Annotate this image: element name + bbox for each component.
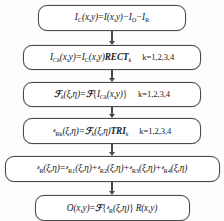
flowchart-canvas: IC(x,y)=I(x,y)−IO−IR ICk(x,y)=IC(x,y)REC… [0, 0, 224, 221]
eq3-lhs-symbol: ℱ [54, 90, 61, 99]
eq3-operator: ℱ [86, 90, 93, 99]
equation-tri-filter: ᵊRk(ξ,η)=ℱk(ξ,η)TRIk k=1,2,3,4 [53, 127, 172, 136]
eq1-t1-args: (x,y) [107, 13, 123, 22]
eq3-lhs-sub: k [61, 94, 64, 100]
eq2-window-sub: k [128, 57, 131, 63]
eq2-r1-sub: C [85, 57, 89, 63]
equation-rect-window: ICk(x,y)=IC(x,y)RECTk k=1,2,3,4 [50, 53, 174, 62]
eq3-brace-close: } [123, 90, 127, 99]
eq4-window-sub: k [126, 131, 129, 137]
flow-node-contrast-image[interactable]: IC(x,y)=I(x,y)−IO−IR [38, 5, 186, 31]
equation-fourier-transform: ℱk(ξ,η)=ℱ{ICk(x,y)} k=1,2,3,4 [54, 90, 170, 99]
eq4-r1-sub: k [91, 131, 94, 137]
eq4-r1-args: (ξ,η) [94, 127, 110, 136]
eq6-lhs-symbol: O [67, 204, 74, 213]
eq1-t3-sub: R [145, 17, 149, 23]
arrow-shaft [111, 182, 112, 192]
flow-arrow-3 [109, 107, 116, 119]
eq3-lhs-args: (ξ,η) [64, 90, 80, 99]
eq5-t4-sub: R4 [164, 168, 171, 174]
equation-output-image: O(x,y)=ℱ{ᵊR(ξ,η)}R(x,y) [67, 204, 157, 213]
eq2-lhs-args: (x,y) [60, 53, 76, 62]
flow-node-tri-filter[interactable]: ᵊRk(ξ,η)=ℱk(ξ,η)TRIk k=1,2,3,4 [23, 118, 201, 144]
equation-contrast-image: IC(x,y)=I(x,y)−IO−IR [75, 13, 149, 22]
flow-node-rect-window[interactable]: ICk(x,y)=IC(x,y)RECTk k=1,2,3,4 [23, 45, 201, 70]
eq4-window-label: TRI [111, 127, 126, 136]
eq6-inner-sub: R [109, 208, 113, 214]
eq5-t3-args: (ξ,η) [139, 164, 155, 173]
arrow-shaft [111, 31, 112, 42]
eq6-tail-args: (x,y) [141, 204, 157, 213]
eq1-lhs-args: (x,y) [82, 13, 98, 22]
eq6-operator: ℱ [95, 204, 102, 213]
flow-arrow-2 [109, 70, 116, 82]
eq4-r1-symbol: ℱ [85, 127, 92, 136]
eq6-lhs-args: (x,y) [73, 204, 89, 213]
eq5-t1-args: (ξ,η) [75, 164, 91, 173]
eq5-t2-sub: R2 [100, 168, 107, 174]
equation-summation: ᵊR(ξ,η)=ᵊR1(ξ,η)+ᵊR2(ξ,η)+ᵊR3(ξ,η)+ᵊR4(ξ… [37, 164, 187, 173]
eq2-window-label: RECT [105, 53, 129, 62]
eq4-lhs-args: (ξ,η) [62, 127, 78, 136]
eq6-inner-args: (ξ,η) [113, 204, 129, 213]
flow-arrow-4 [109, 144, 116, 156]
flowchart-flow: IC(x,y)=I(x,y)−IO−IR ICk(x,y)=IC(x,y)REC… [0, 0, 224, 221]
eq5-t2-args: (ξ,η) [107, 164, 123, 173]
eq1-lhs-sub: C [78, 17, 82, 23]
eq5-t1-sub: R1 [68, 168, 75, 174]
eq4-lhs-sub: Rk [55, 131, 62, 137]
flow-arrow-5 [109, 182, 116, 196]
eq5-lhs-args: (ξ,η) [43, 164, 59, 173]
eq3-inner-args: (x,y) [107, 90, 123, 99]
eq5-lhs-sub: R [39, 168, 43, 174]
eq2-r1-args: (x,y) [89, 53, 105, 62]
eq3-inner-sub: Ck [100, 94, 107, 100]
eq3-condition: k=1,2,3,4 [138, 90, 170, 99]
flow-node-summation[interactable]: ᵊR(ξ,η)=ᵊR1(ξ,η)+ᵊR2(ξ,η)+ᵊR3(ξ,η)+ᵊR4(ξ… [5, 156, 220, 182]
eq2-condition: k=1,2,3,4 [142, 53, 174, 62]
eq1-t2-sub: O [132, 17, 137, 23]
eq6-brace-close: } [129, 204, 133, 213]
eq5-t3-sub: R3 [132, 168, 139, 174]
flow-arrow-1 [109, 31, 116, 46]
flow-node-fourier-transform[interactable]: ℱk(ξ,η)=ℱ{ICk(x,y)} k=1,2,3,4 [23, 82, 201, 107]
flow-node-output-image[interactable]: O(x,y)=ℱ{ᵊR(ξ,η)}R(x,y) [35, 195, 190, 221]
eq4-condition: k=1,2,3,4 [139, 127, 171, 136]
eq2-lhs-sub: Ck [53, 57, 60, 63]
eq5-t4-args: (ξ,η) [171, 164, 187, 173]
